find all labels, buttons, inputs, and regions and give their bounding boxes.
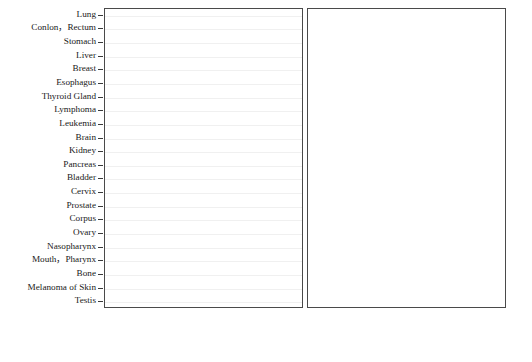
- category-tick: [98, 138, 103, 139]
- category-label: Nasopharynx: [0, 242, 96, 251]
- category-tick: [98, 247, 103, 248]
- category-label: Ovary: [0, 228, 96, 237]
- gridline: [105, 57, 302, 58]
- gridline: [105, 302, 302, 303]
- gridline: [105, 16, 302, 17]
- category-tick: [98, 56, 103, 57]
- gridline: [105, 125, 302, 126]
- category-tick: [98, 219, 103, 220]
- category-label: Thyroid Gland: [0, 92, 96, 101]
- category-label: Brain: [0, 133, 96, 142]
- chart-container: LungConlon，RectumStomachLiverBreastEsoph…: [0, 0, 532, 362]
- rural-x-axis: [307, 308, 506, 332]
- gridline: [105, 220, 302, 221]
- category-tick: [98, 165, 103, 166]
- gridline: [105, 179, 302, 180]
- gridline: [105, 234, 302, 235]
- category-label: Bladder: [0, 173, 96, 182]
- category-tick: [98, 301, 103, 302]
- category-label: Breast: [0, 64, 96, 73]
- category-label: Kidney: [0, 146, 96, 155]
- gridline: [105, 261, 302, 262]
- category-tick: [98, 288, 103, 289]
- category-tick: [98, 69, 103, 70]
- category-tick: [98, 233, 103, 234]
- category-label: Lymphoma: [0, 105, 96, 114]
- category-label: Lung: [0, 10, 96, 19]
- category-tick: [98, 151, 103, 152]
- category-label: Bone: [0, 269, 96, 278]
- category-label: Conlon，Rectum: [0, 23, 96, 32]
- category-label: Cervix: [0, 187, 96, 196]
- urban-plot-panel: [104, 8, 303, 308]
- gridline: [105, 166, 302, 167]
- chart-legend: [418, 286, 422, 288]
- category-label: Stomach: [0, 37, 96, 46]
- category-label: Leukemia: [0, 119, 96, 128]
- category-label: Pancreas: [0, 160, 96, 169]
- category-tick: [98, 206, 103, 207]
- category-tick: [98, 178, 103, 179]
- category-tick: [98, 42, 103, 43]
- gridline: [105, 43, 302, 44]
- category-label: Melanoma of Skin: [0, 283, 96, 292]
- category-axis-labels: LungConlon，RectumStomachLiverBreastEsoph…: [0, 8, 96, 308]
- category-label: Esophagus: [0, 78, 96, 87]
- category-label: Liver: [0, 51, 96, 60]
- gridline: [105, 139, 302, 140]
- rural-plot-panel: [307, 8, 506, 308]
- gridline: [105, 84, 302, 85]
- category-tick: [98, 274, 103, 275]
- gridline: [105, 193, 302, 194]
- category-tick: [98, 28, 103, 29]
- gridline: [105, 70, 302, 71]
- gridline: [105, 289, 302, 290]
- gridline: [105, 98, 302, 99]
- urban-x-axis: [104, 308, 303, 332]
- category-tick: [98, 83, 103, 84]
- category-tick: [98, 110, 103, 111]
- category-tick: [98, 97, 103, 98]
- gridline: [105, 152, 302, 153]
- gridline: [105, 248, 302, 249]
- category-tick: [98, 15, 103, 16]
- category-label: Corpus: [0, 214, 96, 223]
- gridline: [105, 275, 302, 276]
- category-tick: [98, 124, 103, 125]
- category-tick: [98, 260, 103, 261]
- category-tick: [98, 192, 103, 193]
- category-label: Mouth，Pharynx: [0, 255, 96, 264]
- category-label: Prostate: [0, 201, 96, 210]
- gridline: [105, 111, 302, 112]
- gridline: [105, 29, 302, 30]
- gridline: [105, 207, 302, 208]
- category-label: Testis: [0, 296, 96, 305]
